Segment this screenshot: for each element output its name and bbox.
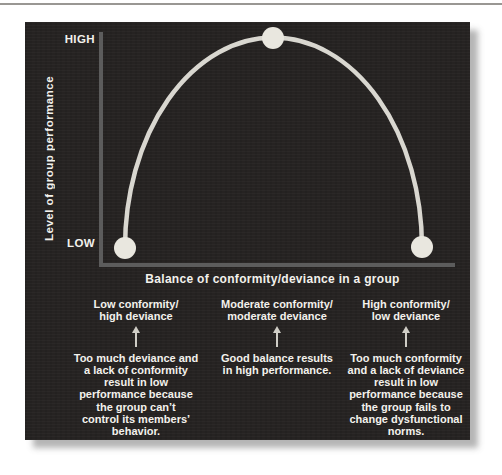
data-point-left-low: [114, 237, 136, 259]
x-axis-label: Balance of conformity/deviance in a grou…: [95, 272, 450, 286]
annotation-line: performance because: [331, 388, 481, 400]
arrow-shaft: [276, 333, 278, 347]
annotation-label: Low conformity/ high deviance: [55, 298, 217, 323]
annotation-line: norms.: [331, 425, 481, 437]
annotation-line: behavior.: [55, 425, 217, 437]
data-point-peak: [262, 27, 284, 49]
annotation-label-line: high deviance: [55, 310, 217, 322]
annotation-line: result in low: [331, 376, 481, 388]
annotation-line: control its members’: [55, 413, 217, 425]
top-divider-line: [0, 3, 502, 5]
annotation-high-conformity: High conformity/ low deviance Too much c…: [331, 298, 481, 438]
annotation-label: High conformity/ low deviance: [331, 298, 481, 323]
annotation-body: Too much deviance and a lack of conformi…: [55, 352, 217, 438]
annotation-line: result in low: [55, 376, 217, 388]
arrow-head: [273, 326, 281, 333]
data-point-right-low: [411, 236, 433, 258]
annotation-line: the group fails to: [331, 401, 481, 413]
annotation-line: change dysfunctional: [331, 413, 481, 425]
arrow-head: [132, 326, 140, 333]
chart-panel: Level of group performance HIGH LOW Bala…: [25, 22, 470, 440]
up-arrow-icon: [55, 326, 217, 347]
page: Level of group performance HIGH LOW Bala…: [0, 0, 502, 475]
arrow-shaft: [135, 333, 137, 347]
annotation-label-line: low deviance: [331, 310, 481, 322]
annotation-line: Too much deviance and: [55, 352, 217, 364]
arrow-shaft: [405, 333, 407, 347]
annotation-line: the group can’t: [55, 401, 217, 413]
up-arrow-icon: [331, 326, 481, 347]
annotation-label-line: Low conformity/: [55, 298, 217, 310]
annotation-line: a lack of conformity: [55, 364, 217, 376]
annotation-label-line: High conformity/: [331, 298, 481, 310]
annotation-line: Too much conformity: [331, 352, 481, 364]
annotation-line: and a lack of deviance: [331, 364, 481, 376]
inverted-u-curve: [125, 38, 422, 248]
arrow-head: [402, 326, 410, 333]
annotation-line: performance because: [55, 388, 217, 400]
annotation-low-conformity: Low conformity/ high deviance Too much d…: [55, 298, 217, 438]
annotation-body: Too much conformity and a lack of devian…: [331, 352, 481, 438]
